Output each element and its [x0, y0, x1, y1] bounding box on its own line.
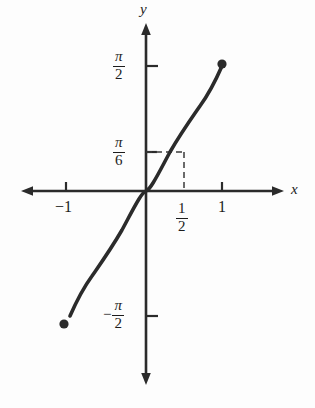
y-tick-label-pi-over-2-denominator: 2 — [113, 66, 125, 83]
y-tick-label-neg-pi-over-2-sign: − — [103, 307, 111, 322]
x-tick-label-one-half-numerator: 1 — [176, 201, 188, 217]
x-tick-label-one-half-denominator: 2 — [176, 218, 188, 235]
x-axis-ticks — [66, 182, 222, 191]
graph-figure: y x π 2 π 6 − π 2 −1 — [0, 0, 315, 408]
x-axis-label: x — [291, 182, 298, 197]
x-axis-left-arrowhead — [21, 186, 33, 196]
arcsine-curve — [59, 59, 226, 328]
y-tick-label-neg-pi-over-2-numerator: π — [112, 298, 124, 314]
x-tick-label-neg1: −1 — [55, 199, 72, 215]
y-axis-label: y — [140, 2, 147, 17]
y-tick-label-pi-over-2-numerator: π — [113, 49, 125, 65]
x-axis — [21, 186, 284, 196]
y-tick-label-pi-over-6: π 6 — [113, 134, 125, 168]
y-tick-label-pi-over-6-numerator: π — [113, 135, 125, 151]
y-tick-label-neg-pi-over-2: − π 2 — [103, 298, 124, 331]
y-axis — [141, 23, 151, 385]
endpoint-dot-lower-left — [59, 319, 68, 328]
y-tick-label-pi-over-2: π 2 — [113, 48, 125, 82]
y-axis-top-arrowhead — [141, 23, 151, 35]
plot-canvas — [0, 0, 315, 408]
x-tick-label-one-half: 1 2 — [176, 200, 188, 234]
y-tick-label-pi-over-6-denominator: 6 — [113, 152, 125, 169]
endpoint-dot-upper-right — [217, 59, 226, 68]
y-tick-label-neg-pi-over-2-denominator: 2 — [112, 315, 124, 332]
x-tick-label-1: 1 — [218, 199, 226, 215]
y-axis-bottom-arrowhead — [141, 373, 151, 385]
x-axis-right-arrowhead — [272, 186, 284, 196]
